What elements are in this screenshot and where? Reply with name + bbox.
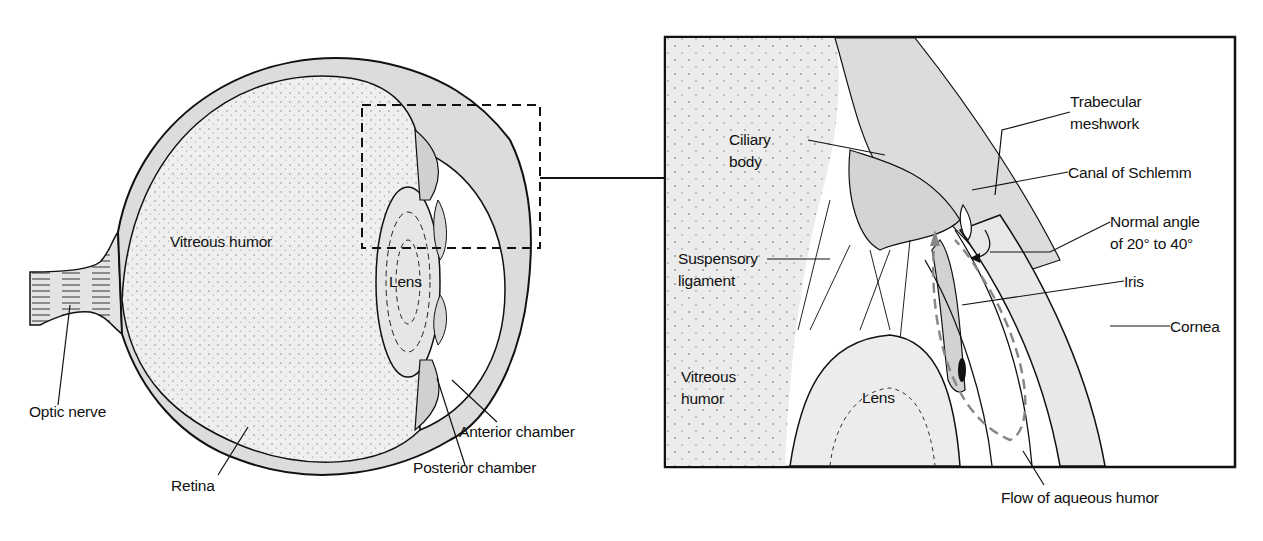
label-posterior-chamber: Posterior chamber — [413, 458, 536, 477]
label-trabecular-meshwork-line2: meshwork — [1070, 114, 1139, 133]
label-normal-angle-line2: of 20° to 40° — [1110, 234, 1193, 253]
label-suspensory-ligament-line2: ligament — [678, 271, 735, 290]
label-cornea: Cornea — [1170, 317, 1220, 336]
label-flow-of-aqueous-humor: Flow of aqueous humor — [1001, 488, 1159, 507]
label-ciliary-body-line1: Ciliary — [729, 130, 771, 149]
label-retina: Retina — [171, 476, 215, 495]
label-normal-angle-line1: Normal angle — [1110, 212, 1200, 231]
label-vitreous-humor-detail-line2: humor — [681, 389, 724, 408]
label-lens: Lens — [389, 272, 422, 291]
label-vitreous-humor: Vitreous humor — [170, 232, 272, 251]
label-vitreous-humor-detail-line1: Vitreous — [681, 367, 736, 386]
label-ciliary-body-line2: body — [729, 152, 762, 171]
label-suspensory-ligament-line1: Suspensory — [678, 249, 758, 268]
label-anterior-chamber: Anterior chamber — [459, 422, 575, 441]
eye-anatomy-diagram — [0, 0, 1263, 541]
label-trabecular-meshwork-line1: Trabecular — [1070, 92, 1142, 111]
optic-nerve — [30, 232, 122, 334]
label-canal-of-schlemm: Canal of Schlemm — [1068, 163, 1191, 182]
eyeball-overview — [30, 58, 665, 475]
label-iris: Iris — [1124, 272, 1144, 291]
label-lens-detail: Lens — [862, 388, 895, 407]
label-optic-nerve: Optic nerve — [29, 402, 106, 421]
